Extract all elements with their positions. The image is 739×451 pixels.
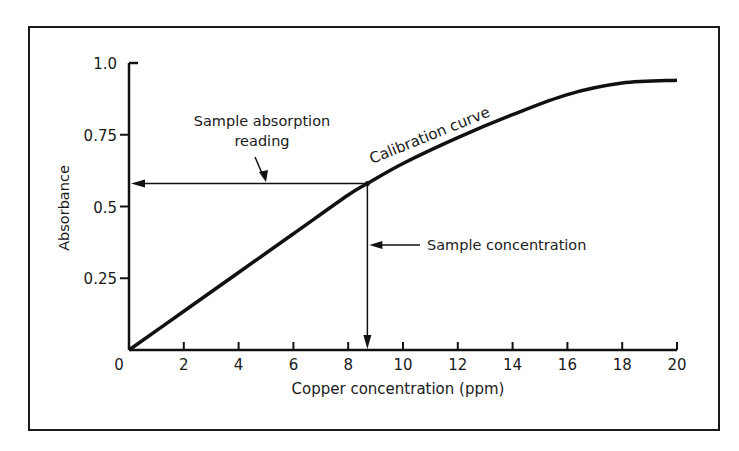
axes [129, 63, 677, 350]
y-axis-title: Absorbance [56, 165, 72, 251]
x-tick-label: 0 [114, 356, 124, 374]
y-tick-label: 1.0 [93, 55, 117, 73]
y-tick-label: 0.75 [84, 127, 117, 145]
x-tick-label: 14 [503, 356, 522, 374]
absorption-label-line1: Sample absorption [194, 113, 330, 129]
x-tick-label: 12 [448, 356, 467, 374]
y-tick-label: 0.25 [84, 270, 117, 288]
concentration-label: Sample concentration [427, 237, 586, 253]
x-tick-label: 20 [667, 356, 686, 374]
x-tick-label: 18 [613, 356, 632, 374]
x-tick-label: 2 [179, 356, 189, 374]
x-axis-title: Copper concentration (ppm) [292, 380, 505, 398]
x-tick-label: 6 [289, 356, 299, 374]
sample-point [365, 181, 370, 186]
arrow-left-icon [369, 241, 382, 249]
arrow-pointer-icon [259, 170, 268, 182]
y-tick-label: 0.5 [93, 199, 117, 217]
arrow-down-icon [363, 335, 371, 349]
curve-label: Calibration curve [367, 103, 493, 168]
calibration-chart: 024681012141618200.250.50.751.0 Calibrat… [0, 0, 739, 451]
x-tick-label: 16 [558, 356, 577, 374]
x-tick-label: 4 [234, 356, 244, 374]
absorption-label-line2: reading [234, 133, 289, 149]
x-tick-label: 10 [393, 356, 412, 374]
x-tick-label: 8 [343, 356, 353, 374]
ticks: 024681012141618200.250.50.751.0 [84, 55, 687, 374]
sample-guides [131, 157, 420, 349]
arrow-left-icon [131, 180, 145, 188]
